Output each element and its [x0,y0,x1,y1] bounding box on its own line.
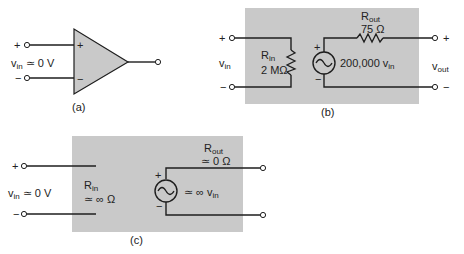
input-minus-terminal [21,211,26,216]
vin-label: vin [219,57,231,71]
vout-label: vout [432,60,449,74]
in-minus-sign: − [220,81,226,93]
input-plus-terminal [21,163,26,168]
out-minus-sign: − [443,81,449,93]
output-plus-terminal [432,35,437,40]
in-plus-sign: + [219,32,225,44]
caption-c: (c) [130,234,143,246]
rout-value: 75 Ω [361,23,385,35]
vin-label: vin ≃ 0 V [11,57,55,71]
rout-value: ≃ 0 Ω [201,155,230,167]
source-gain: 200,000 vin [340,57,395,71]
opamp-diagram: + − + − vin ≃ 0 V (a) + − + − vin Rin 2 … [0,0,464,254]
input-plus-terminal [229,35,234,40]
vin-label: vin ≃ 0 V [8,187,52,201]
opamp-noninverting-sign: + [77,39,83,51]
source-plus-sign: + [314,41,320,53]
output-minus-terminal [432,84,437,89]
in-minus-sign: − [13,208,19,220]
figure-c: + − vin ≃ 0 V Rin ≃ ∞ Ω Rout ≃ 0 Ω + − ≃… [8,136,266,246]
minus-sign: − [15,72,21,84]
rin-value: 2 MΩ [261,64,288,76]
source-plus-sign: + [155,169,161,181]
output-terminal [155,59,160,64]
opamp-inverting-sign: − [77,73,83,85]
rin-value: ≃ ∞ Ω [84,193,115,205]
out-plus-sign: + [443,32,449,44]
output-top-terminal [260,165,265,170]
input-plus-terminal [24,42,29,47]
input-minus-terminal [24,75,29,80]
caption-a: (a) [72,101,85,113]
caption-b: (b) [321,106,334,118]
figure-a: + − + − vin ≃ 0 V (a) [11,29,161,113]
source-minus-sign: − [315,73,321,85]
plus-sign: + [14,39,20,51]
input-minus-terminal [229,84,234,89]
in-plus-sign: + [12,160,18,172]
source-minus-sign: − [156,200,162,212]
output-bottom-terminal [260,212,265,217]
figure-b: + − + − vin Rin 2 MΩ Rout 75 Ω + − 200,0… [219,8,449,118]
